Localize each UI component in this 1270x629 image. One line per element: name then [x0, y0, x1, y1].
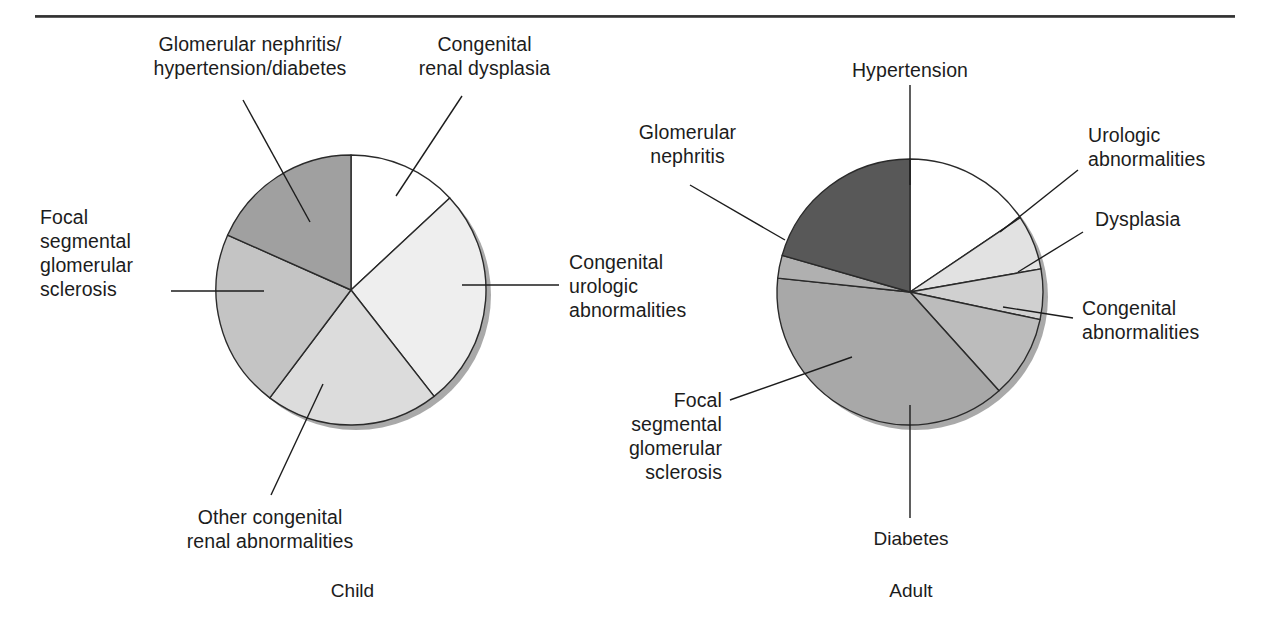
- caption-child: Child: [270, 580, 435, 602]
- adult-pie-group: [777, 159, 1048, 430]
- label-adult-focal-segmental: Focal segmental glomerular sclerosis: [570, 388, 722, 484]
- label-child-glomerular-nephritis: Glomerular nephritis/ hypertension/diabe…: [105, 32, 395, 80]
- label-child-congenital-urologic: Congenital urologic abnormalities: [569, 250, 754, 322]
- label-child-other-congenital: Other congenital renal abnormalities: [125, 505, 415, 553]
- label-adult-dysplasia: Dysplasia: [1095, 207, 1255, 231]
- label-adult-urologic-abnormalities: Urologic abnormalities: [1088, 123, 1263, 171]
- label-adult-congenital-abnormalities: Congenital abnormalities: [1082, 296, 1257, 344]
- child-pie-slices: [216, 155, 486, 425]
- leader-adult-glomerular-nephritis: [690, 185, 785, 240]
- label-adult-glomerular-nephritis: Glomerular nephritis: [600, 120, 775, 168]
- label-child-focal-segmental: Focal segmental glomerular sclerosis: [40, 205, 165, 301]
- adult-pie-slices: [777, 159, 1043, 425]
- caption-adult-diabetes: Diabetes: [845, 528, 977, 550]
- label-adult-hypertension: Hypertension: [820, 58, 1000, 82]
- figure-root: Glomerular nephritis/ hypertension/diabe…: [0, 0, 1270, 629]
- child-pie-group: [216, 155, 491, 430]
- label-child-congenital-renal-dysplasia: Congenital renal dysplasia: [382, 32, 587, 80]
- caption-adult: Adult: [845, 580, 977, 602]
- leader-adult-urologic-abnormalities: [1000, 170, 1078, 232]
